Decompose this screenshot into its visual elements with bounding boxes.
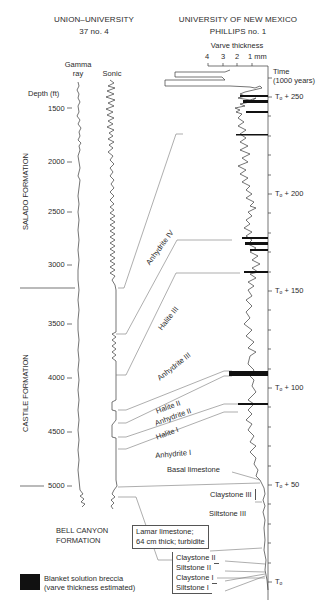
leader-siltstone-ii bbox=[225, 571, 265, 572]
unit-siltstone-iii: Siltstone III bbox=[209, 510, 246, 518]
legend-breccia-line2: (varve thickness estimated) bbox=[44, 584, 135, 592]
correlation-lines bbox=[116, 134, 265, 591]
time-axis-ticks bbox=[268, 78, 272, 582]
stratigraphic-correlation-diagram bbox=[0, 0, 330, 610]
correlation-halite-iii-top bbox=[116, 240, 232, 334]
unit-siltstone-i: Siltstone I bbox=[172, 582, 212, 594]
sonic-log bbox=[106, 80, 117, 509]
unit-basal-limestone: Basal limestone bbox=[167, 466, 220, 474]
lamar-line2: 64 cm thick; turbidite bbox=[136, 537, 205, 547]
gamma-ray-log bbox=[77, 82, 85, 507]
leader-lamar bbox=[210, 548, 262, 551]
depth-ticks bbox=[67, 108, 72, 486]
correlation-basal-limestone bbox=[118, 483, 260, 487]
legend-breccia-swatch bbox=[20, 574, 40, 590]
unit-lamar-limestone-box: Lamar limestone; 64 cm thick; turbidite bbox=[132, 525, 209, 549]
leader-claystone-i bbox=[225, 574, 265, 581]
leader-claystone-ii bbox=[225, 561, 265, 564]
breccia-bands bbox=[229, 95, 268, 405]
legend-breccia-line1: Blanket solution breccia bbox=[44, 575, 123, 583]
lamar-line1: Lamar limestone; bbox=[136, 527, 205, 537]
unit-claystone-iii: Claystone III bbox=[207, 489, 256, 500]
